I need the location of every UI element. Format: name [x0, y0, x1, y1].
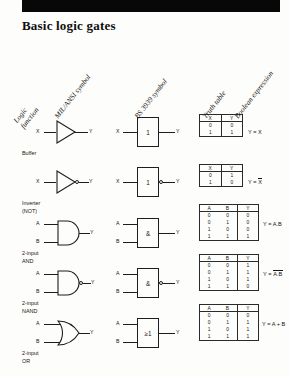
table-header-row: A B Y — [200, 255, 259, 262]
truth-table-inverter: X Y 0 1 1 0 — [199, 164, 243, 187]
boolean-expression-inverter: Y = X — [248, 179, 262, 185]
gate-row-buffer: Buffer X Y X 1 Y X Y 0 — [0, 118, 290, 164]
table-row: 0 0 0 — [200, 312, 259, 319]
input-label-a: A — [36, 270, 39, 276]
table-row: 1 1 1 — [200, 333, 259, 340]
col-header: A — [200, 305, 219, 312]
gate-row-or: 2-input OR A B Y A B ≥1 Y A B Y — [0, 316, 290, 366]
col-header: Y — [237, 255, 258, 262]
col-header: Y — [221, 115, 243, 122]
col-header: X — [200, 115, 222, 122]
column-header-mil-ansi-symbol: MIL/ANSI symbol — [53, 73, 92, 120]
document-page: Basic logic gates Logic function MIL/ANS… — [0, 0, 290, 376]
table-row: 0 0 1 — [200, 262, 259, 269]
input-label-a: A — [116, 270, 119, 276]
output-label-y: Y — [176, 329, 179, 335]
gate-label-buffer: Buffer — [22, 150, 36, 158]
input-label-b: B — [36, 288, 39, 294]
overbar-term: A.B — [273, 270, 283, 277]
output-label-y: Y — [89, 178, 92, 184]
table-row: 1 1 — [200, 129, 243, 136]
table-row: 0 0 — [200, 122, 243, 129]
bs-box-label: & — [146, 230, 150, 237]
input-label-b: B — [36, 338, 39, 344]
input-label-a: A — [36, 220, 39, 226]
gate-label-inverter: Inverter (NOT) — [22, 200, 40, 216]
output-label-y: Y — [176, 229, 179, 235]
table-header-row: A B Y — [200, 205, 259, 212]
col-header: B — [218, 255, 237, 262]
table-row: 1 0 1 — [200, 326, 259, 333]
bs-box-and: & — [137, 218, 159, 248]
truth-table-or: A B Y 0 0 0 0 1 1 1 0 1 1 1 1 — [199, 304, 259, 341]
input-label-x: X — [116, 128, 119, 134]
bs-box-buffer: 1 — [137, 117, 159, 147]
input-label-x: X — [36, 128, 39, 134]
page-top-black-bar — [22, 0, 280, 12]
col-header: A — [200, 255, 219, 262]
input-label-x: X — [36, 178, 39, 184]
column-header-bs-3939-symbol: BS 3939 symbol — [133, 78, 169, 121]
input-label-b: B — [116, 338, 119, 344]
col-header: B — [218, 305, 237, 312]
output-label-y: Y — [90, 329, 93, 335]
input-label-b: B — [116, 238, 119, 244]
table-header-row: X Y — [200, 165, 243, 172]
input-label-a: A — [116, 220, 119, 226]
page-title: Basic logic gates — [22, 18, 116, 34]
table-row: 1 0 1 — [200, 276, 259, 283]
output-label-y: Y — [176, 279, 179, 285]
output-label-y: Y — [91, 279, 94, 285]
table-row: 0 1 — [200, 172, 243, 179]
input-label-b: B — [116, 288, 119, 294]
table-row: 0 1 1 — [200, 319, 259, 326]
col-header: A — [200, 205, 219, 212]
table-row: 1 0 0 — [200, 226, 259, 233]
boolean-expression-or: Y = A + B — [262, 321, 285, 327]
table-row: 0 1 0 — [200, 219, 259, 226]
overbar-term: X — [258, 178, 262, 185]
bs-box-nand: & — [137, 268, 159, 298]
bs-box-label: ≥1 — [145, 330, 152, 337]
table-row: 0 0 0 — [200, 212, 259, 219]
truth-table-buffer: X Y 0 0 1 1 — [199, 114, 243, 137]
input-label-b: B — [36, 238, 39, 244]
table-row: 1 1 0 — [200, 283, 259, 290]
bs-box-label: & — [146, 280, 150, 287]
col-header: B — [218, 205, 237, 212]
and-gate-shape-icon — [57, 220, 81, 246]
bs-box-label: 1 — [146, 129, 150, 136]
bs-box-or: ≥1 — [137, 318, 159, 348]
input-label-x: X — [116, 178, 119, 184]
col-header: Y — [237, 205, 258, 212]
bs-box-label: 1 — [146, 179, 150, 186]
table-row: 1 1 1 — [200, 233, 259, 240]
boolean-expression-and: Y = A.B — [263, 221, 282, 227]
input-label-a: A — [36, 320, 39, 326]
output-label-y: Y — [89, 128, 92, 134]
col-header: X — [200, 165, 222, 172]
truth-table-nand: A B Y 0 0 1 0 1 1 1 0 1 1 1 0 — [199, 254, 259, 291]
col-header: Y — [237, 305, 258, 312]
bs-box-inverter: 1 — [137, 167, 159, 197]
output-label-y: Y — [176, 178, 179, 184]
nand-gate-shape-icon — [57, 270, 81, 296]
gate-label-nand: 2-input NAND — [22, 300, 38, 316]
gate-label-or: 2-input OR — [22, 350, 38, 366]
boolean-expression-nand: Y = A.B — [263, 271, 283, 277]
col-header: Y — [221, 165, 243, 172]
output-label-y: Y — [90, 229, 93, 235]
output-label-y: Y — [176, 128, 179, 134]
table-row: 0 1 1 — [200, 269, 259, 276]
gate-label-and: 2-input AND — [22, 250, 38, 266]
truth-table-and: A B Y 0 0 0 0 1 0 1 0 0 1 1 1 — [199, 204, 259, 241]
boolean-expression-buffer: Y = X — [248, 129, 262, 135]
table-row: 1 0 — [200, 179, 243, 186]
column-header-boolean-expression: Boolean expression — [233, 70, 275, 121]
table-header-row: X Y — [200, 115, 243, 122]
table-header-row: A B Y — [200, 305, 259, 312]
input-label-a: A — [116, 320, 119, 326]
